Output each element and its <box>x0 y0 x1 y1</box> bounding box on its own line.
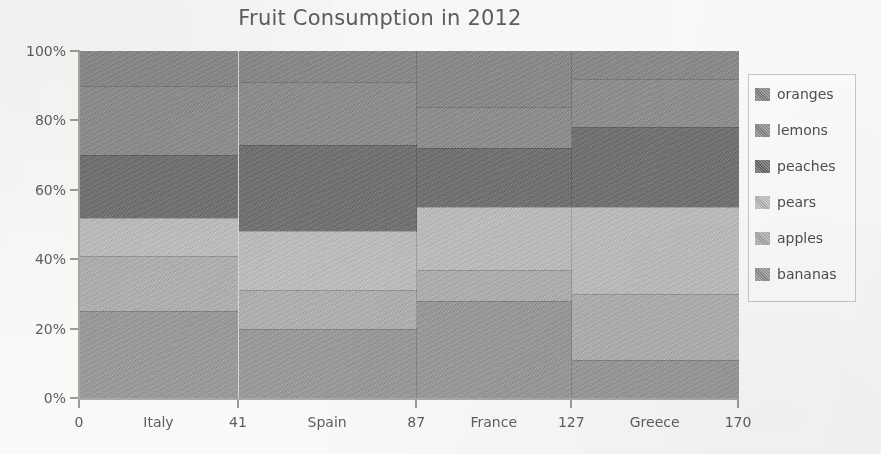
mosaic-tile-france-peaches <box>417 148 572 207</box>
y-tick-label-wrap: 0% <box>0 390 66 404</box>
y-tick-label-wrap: 80% <box>0 112 66 126</box>
mosaic-tile-greece-peaches <box>572 127 739 207</box>
x-tick-mark <box>415 400 417 408</box>
x-tick-mark <box>737 400 739 408</box>
legend-swatch-icon-oranges <box>755 88 770 101</box>
mosaic-tile-spain-peaches <box>239 145 417 232</box>
mosaic-tile-spain-lemons <box>239 82 417 144</box>
x-axis-category-greece: Greece <box>630 414 680 430</box>
legend-item-lemons[interactable]: lemons <box>755 121 828 139</box>
y-tick-label: 80% <box>35 112 66 128</box>
legend-label: pears <box>777 194 816 210</box>
y-tick-mark <box>70 328 78 330</box>
legend-swatch-icon-lemons <box>755 124 770 137</box>
legend-item-pears[interactable]: pears <box>755 193 816 211</box>
plot-area <box>79 51 738 398</box>
legend-item-apples[interactable]: apples <box>755 229 823 247</box>
legend-label: apples <box>777 230 823 246</box>
mosaic-tile-italy-oranges <box>79 51 238 86</box>
mosaic-tile-italy-apples <box>79 256 238 312</box>
y-tick-mark <box>70 119 78 121</box>
x-tick-mark <box>570 400 572 408</box>
mosaic-tile-italy-bananas <box>79 311 238 398</box>
legend-swatch-icon-bananas <box>755 268 770 281</box>
legend-swatch-icon-peaches <box>755 160 770 173</box>
y-tick-label-wrap: 20% <box>0 321 66 335</box>
y-tick-label: 60% <box>35 182 66 198</box>
mosaic-tile-france-lemons <box>417 107 572 149</box>
x-axis-category-italy: Italy <box>143 414 173 430</box>
x-axis-category-france: France <box>471 414 518 430</box>
mosaic-column-greece <box>571 51 739 398</box>
x-axis-boundary-label: 87 <box>407 414 425 430</box>
y-tick-label: 0% <box>44 390 66 406</box>
y-tick-label: 40% <box>35 251 66 267</box>
x-tick-mark <box>237 400 239 408</box>
mosaic-tile-france-oranges <box>417 51 572 107</box>
mosaic-tile-italy-pears <box>79 218 238 256</box>
y-axis-line <box>78 50 80 399</box>
legend-swatch-icon-pears <box>755 196 770 209</box>
mosaic-tile-italy-lemons <box>79 86 238 155</box>
mosaic-tile-france-bananas <box>417 301 572 398</box>
y-tick-label: 20% <box>35 321 66 337</box>
legend-label: peaches <box>777 158 836 174</box>
x-axis-category-spain: Spain <box>308 414 347 430</box>
y-tick-label-wrap: 40% <box>0 251 66 265</box>
mosaic-tile-greece-lemons <box>572 79 739 128</box>
legend-item-oranges[interactable]: oranges <box>755 85 834 103</box>
x-axis-boundary-label: 127 <box>558 414 585 430</box>
mosaic-tile-spain-pears <box>239 231 417 290</box>
legend-item-peaches[interactable]: peaches <box>755 157 836 175</box>
legend-label: oranges <box>777 86 834 102</box>
y-tick-label: 100% <box>26 43 66 59</box>
x-axis-boundary-label: 170 <box>725 414 752 430</box>
legend: orangeslemonspeachespearsapplesbananas <box>748 74 856 302</box>
legend-label: bananas <box>777 266 837 282</box>
y-tick-label-wrap: 60% <box>0 182 66 196</box>
mosaic-tile-spain-bananas <box>239 329 417 398</box>
x-axis-line <box>78 398 739 400</box>
chart-canvas: Fruit Consumption in 2012 0%20%40%60%80%… <box>0 0 881 454</box>
y-tick-mark <box>70 50 78 52</box>
y-tick-mark <box>70 189 78 191</box>
legend-label: lemons <box>777 122 828 138</box>
mosaic-column-italy <box>79 51 238 398</box>
mosaic-tile-greece-pears <box>572 207 739 294</box>
y-tick-mark <box>70 397 78 399</box>
mosaic-tile-italy-peaches <box>79 155 238 217</box>
mosaic-column-spain <box>238 51 417 398</box>
legend-swatch-icon-apples <box>755 232 770 245</box>
mosaic-tile-greece-oranges <box>572 51 739 79</box>
mosaic-tile-greece-bananas <box>572 360 739 398</box>
x-tick-mark <box>78 400 80 408</box>
mosaic-tile-france-pears <box>417 207 572 269</box>
x-axis-boundary-label: 0 <box>75 414 84 430</box>
legend-item-bananas[interactable]: bananas <box>755 265 837 283</box>
mosaic-tile-france-apples <box>417 270 572 301</box>
y-tick-label-wrap: 100% <box>0 43 66 57</box>
page-title: Fruit Consumption in 2012 <box>0 6 760 30</box>
x-axis-boundary-label: 41 <box>229 414 247 430</box>
mosaic-column-france <box>416 51 572 398</box>
mosaic-tile-spain-oranges <box>239 51 417 82</box>
mosaic-tile-greece-apples <box>572 294 739 360</box>
mosaic-tile-spain-apples <box>239 290 417 328</box>
y-tick-mark <box>70 258 78 260</box>
